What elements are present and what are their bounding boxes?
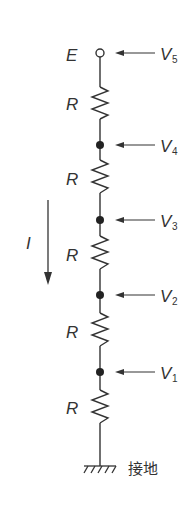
voltage-label-v3: V 3 — [160, 212, 178, 232]
resistor-2 — [92, 160, 108, 193]
junction-dot-v2 — [96, 291, 104, 299]
resistor-3 — [92, 236, 108, 269]
resistor-label-1: R — [66, 95, 78, 114]
resistor-5 — [92, 390, 108, 423]
svg-text:4: 4 — [172, 146, 178, 157]
resistor-1 — [92, 87, 108, 119]
resistor-label-2: R — [66, 170, 78, 189]
current-arrow-icon — [44, 200, 52, 285]
resistor-label-3: R — [66, 246, 78, 265]
junction-dot-v4 — [96, 141, 104, 149]
svg-text:5: 5 — [172, 54, 178, 65]
svg-text:2: 2 — [172, 296, 178, 307]
svg-text:1: 1 — [172, 373, 178, 384]
junction-dot-v1 — [96, 368, 104, 376]
terminal-circle — [96, 49, 104, 57]
resistor-label-5: R — [66, 399, 78, 418]
resistor-4 — [92, 313, 108, 346]
voltage-label-v1: V 1 — [160, 364, 178, 384]
voltage-arrows — [115, 50, 155, 375]
current-label: I — [26, 234, 31, 253]
circuit-diagram: E R R R R R I V 5 V 4 V 3 V 2 V 1 接地 — [0, 0, 188, 515]
wire — [92, 57, 108, 466]
ground-label: 接地 — [128, 460, 158, 478]
svg-text:3: 3 — [172, 221, 178, 232]
voltage-label-v5: V 5 — [160, 45, 178, 65]
voltage-label-v4: V 4 — [160, 137, 178, 157]
voltage-label-v2: V 2 — [160, 287, 178, 307]
ground-icon — [84, 466, 116, 473]
source-label: E — [66, 46, 78, 65]
junction-dot-v3 — [96, 216, 104, 224]
resistor-label-4: R — [66, 323, 78, 342]
